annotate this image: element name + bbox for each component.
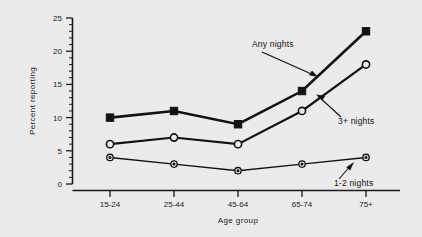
line-chart-plot: 0 5 10 15 20 25 Percent reporting 15-24 … — [0, 0, 422, 237]
annotation-label-3-plus-nights: 3+ nights — [338, 116, 375, 126]
annotation-label-any-nights: Any nights — [252, 39, 294, 49]
y-axis-major-ticks — [66, 18, 73, 184]
x-tick-label: 25-44 — [164, 200, 185, 209]
x-axis-ticks — [110, 191, 366, 198]
x-tick-label: 45-64 — [228, 200, 249, 209]
x-tick-label: 75+ — [359, 200, 373, 209]
annotation-any-nights: Any nights — [252, 39, 318, 77]
y-axis-tick-labels: 0 5 10 15 20 25 — [53, 14, 62, 189]
series-markers-1-2-nights — [107, 154, 369, 174]
x-axis-tick-labels: 15-24 25-44 45-64 65-74 75+ — [100, 200, 373, 209]
y-tick-label: 10 — [53, 114, 62, 123]
annotation-3-plus-nights: 3+ nights — [316, 95, 375, 127]
y-tick-label: 20 — [53, 47, 62, 56]
y-axis-title: Percent reporting — [28, 67, 37, 135]
chart-figure: 0 5 10 15 20 25 Percent reporting 15-24 … — [0, 0, 422, 237]
x-tick-label: 15-24 — [100, 200, 121, 209]
annotation-arrowhead-any-nights — [309, 71, 318, 77]
y-tick-label: 15 — [53, 80, 62, 89]
y-tick-label: 5 — [58, 147, 63, 156]
x-tick-label: 65-74 — [292, 200, 313, 209]
y-tick-label: 0 — [58, 180, 63, 189]
annotation-label-1-2-nights: 1-2 nights — [334, 178, 373, 188]
series-markers-3-plus-nights — [106, 61, 369, 148]
x-axis-title: Age group — [218, 216, 259, 225]
series-line-any-nights — [110, 31, 366, 124]
annotation-1-2-nights: 1-2 nights — [334, 162, 373, 188]
y-tick-label: 25 — [53, 14, 62, 23]
